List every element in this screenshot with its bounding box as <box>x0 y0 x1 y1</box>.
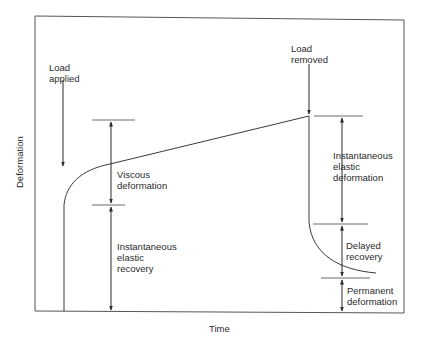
load-applied-label: Load applied <box>49 62 80 84</box>
load-removed-label: Load removed <box>291 43 328 65</box>
instantaneous-elastic-recovery-label: Instantaneous elastic recovery <box>117 241 177 274</box>
permanent-deformation-label: Permanent deformation <box>347 285 397 307</box>
instantaneous-elastic-deformation-label: Instantaneous elastic deformation <box>333 150 393 183</box>
x-axis-label: Time <box>209 323 230 334</box>
y-axis-label: Deformation <box>14 136 25 188</box>
viscous-deformation-label: Viscous deformation <box>117 169 167 191</box>
delayed-recovery-label: Delayed recovery <box>346 240 382 262</box>
